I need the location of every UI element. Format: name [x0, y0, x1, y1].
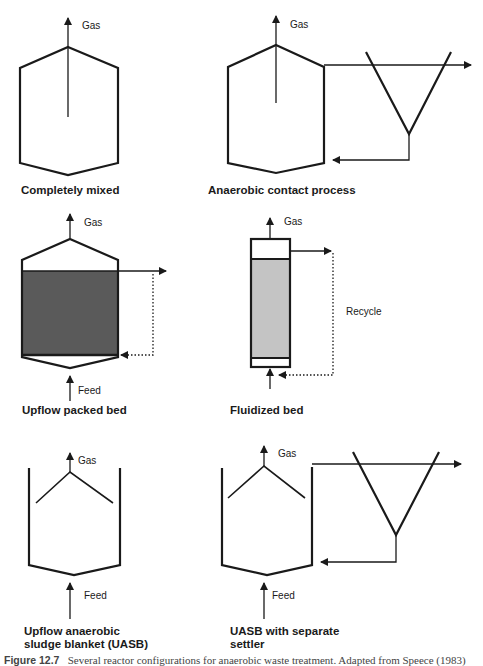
gas-label: Gas — [284, 216, 302, 227]
panel-title-uasb-settler-line1: UASB with separate — [230, 625, 339, 638]
sludge-recycle-arrow-icon — [321, 535, 396, 562]
completely-mixed-reactor — [20, 18, 118, 175]
panel-title-anaerobic-contact: Anaerobic contact process — [208, 184, 356, 197]
gas-label: Gas — [84, 217, 102, 228]
uasb-with-settler-reactor — [222, 446, 461, 619]
figure-number: Figure 12.7 — [4, 654, 59, 666]
reactor-vessel — [222, 467, 312, 575]
gas-label: Gas — [82, 20, 100, 31]
gas-label: Gas — [78, 455, 96, 466]
panel-title-uasb-line2: sludge blanket (UASB) — [24, 638, 148, 651]
fluidized-bed-reactor — [251, 218, 333, 389]
sludge-recycle-arrow-icon — [333, 134, 409, 160]
panel-title-fluidized-bed: Fluidized bed — [230, 404, 303, 417]
gas-solid-separator-hood — [36, 472, 113, 503]
figure-caption: Figure 12.7 Several reactor configuratio… — [4, 654, 466, 666]
gas-label: Gas — [290, 19, 308, 30]
feed-label: Feed — [78, 385, 101, 396]
panel-title-upflow-packed-bed: Upflow packed bed — [22, 404, 127, 417]
anaerobic-contact-reactor — [228, 16, 471, 173]
reactor-vessel — [20, 47, 118, 175]
gas-solid-separator-hood — [228, 466, 305, 498]
upflow-packed-bed-reactor — [22, 214, 166, 401]
feed-label: Feed — [84, 590, 107, 601]
packed-media — [22, 271, 118, 356]
panel-title-uasb-line1: Upflow anaerobic — [24, 625, 120, 638]
fluidized-media — [251, 259, 290, 358]
panel-title-completely-mixed: Completely mixed — [21, 184, 119, 197]
recycle-dotted-arrow-icon — [121, 274, 153, 355]
feed-label: Feed — [272, 590, 295, 601]
settler-tank — [366, 52, 451, 134]
gas-label: Gas — [278, 448, 296, 459]
recycle-label: Recycle — [346, 306, 382, 317]
panel-title-uasb-settler-line2: settler — [230, 638, 265, 651]
reactor-vessel — [29, 468, 120, 575]
figure-caption-text: Several reactor configurations for anaer… — [68, 654, 466, 666]
